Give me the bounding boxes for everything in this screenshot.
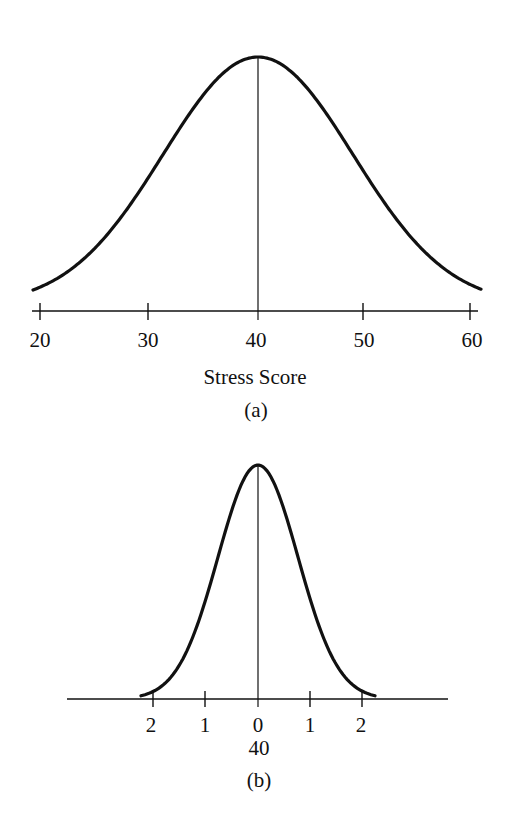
caption-b: (b) xyxy=(247,768,272,792)
tick-label-a: 30 xyxy=(138,328,159,352)
tick-label-b: 2 xyxy=(356,713,367,737)
center-score-label-b: 40 xyxy=(249,736,270,760)
tick-label-b: 1 xyxy=(200,713,211,737)
tick-label-a: 20 xyxy=(30,328,51,352)
x-axis-label-a: Stress Score xyxy=(203,365,306,389)
normal-curve-a xyxy=(33,57,481,290)
caption-a: (a) xyxy=(244,398,267,422)
figure: 20 30 40 50 60 Stress Score (a) 2 1 0 1 … xyxy=(0,0,530,834)
tick-label-b: 0 xyxy=(253,713,264,737)
tick-label-a: 60 xyxy=(462,328,483,352)
tick-label-b: 2 xyxy=(146,713,157,737)
tick-label-b: 1 xyxy=(305,713,316,737)
panel-b: 2 1 0 1 2 40 (b) xyxy=(67,465,448,792)
tick-label-a: 40 xyxy=(246,328,267,352)
panel-a: 20 30 40 50 60 Stress Score (a) xyxy=(30,57,483,422)
tick-label-a: 50 xyxy=(354,328,375,352)
